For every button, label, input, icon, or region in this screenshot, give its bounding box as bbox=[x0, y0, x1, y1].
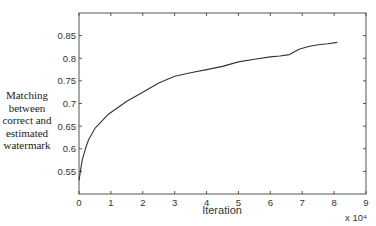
x-tick-label: 2 bbox=[140, 197, 145, 208]
data-series bbox=[79, 42, 337, 180]
y-tick-label: 0.6 bbox=[63, 143, 76, 154]
series-line bbox=[79, 42, 337, 180]
x-tick-label: 1 bbox=[108, 197, 113, 208]
x-tick-label: 3 bbox=[172, 197, 177, 208]
y-tick-label: 0.85 bbox=[58, 30, 77, 41]
y-tick-label: 0.8 bbox=[63, 53, 76, 64]
plot-frame bbox=[79, 13, 366, 194]
y-tick-label: 0.7 bbox=[63, 98, 76, 109]
y-tick-label: 0.75 bbox=[58, 75, 77, 86]
x-axis-label: Iteration bbox=[202, 204, 242, 216]
x-tick-label: 7 bbox=[300, 197, 305, 208]
x-tick-label: 9 bbox=[363, 197, 368, 208]
x-tick-label: 8 bbox=[331, 197, 336, 208]
y-tick-label: 0.65 bbox=[58, 121, 77, 132]
axis-ticks: 01234567890.550.60.650.70.750.80.85 bbox=[58, 13, 369, 208]
y-tick-label: 0.55 bbox=[58, 166, 77, 177]
x-multiplier-label: x 10⁴ bbox=[345, 212, 367, 223]
plot-axes bbox=[79, 13, 366, 194]
x-tick-label: 0 bbox=[76, 197, 81, 208]
line-chart: 01234567890.550.60.650.70.750.80.85 Iter… bbox=[0, 0, 376, 226]
x-tick-label: 6 bbox=[268, 197, 273, 208]
